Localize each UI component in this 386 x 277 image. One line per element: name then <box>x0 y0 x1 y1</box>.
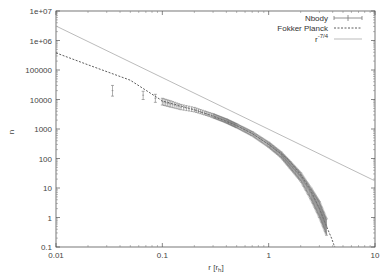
y-tick-label: 1000 <box>34 125 52 134</box>
legend-label-powerlaw: r-7/4 <box>315 33 329 44</box>
y-tick-label: 100000 <box>25 66 52 75</box>
x-axis-ticks: 0.010.1110 <box>48 11 380 260</box>
legend-swatch-nbody <box>334 15 362 21</box>
legend-label-nbody: Nbody <box>305 14 328 23</box>
x-tick-label: 1 <box>266 251 271 260</box>
chart: 0.11101001000100001000001e+061e+07 0.010… <box>0 0 386 277</box>
series-fokker-planck-line <box>56 53 335 247</box>
x-tick-label: 0.1 <box>157 251 169 260</box>
y-tick-label: 1e+07 <box>30 7 53 16</box>
x-tick-label: 0.01 <box>48 251 64 260</box>
y-tick-label: 1e+06 <box>30 37 53 46</box>
legend-label-fokker-planck: Fokker Planck <box>277 24 329 33</box>
y-tick-label: 10000 <box>30 96 53 105</box>
series-powerlaw-line <box>56 26 375 181</box>
x-axis-title: r [rh] <box>208 263 223 273</box>
x-tick-label: 10 <box>371 251 380 260</box>
y-tick-label: 1 <box>48 214 53 223</box>
y-axis-title: n <box>7 130 16 134</box>
series-nbody-points <box>111 85 328 235</box>
y-tick-label: 100 <box>39 155 53 164</box>
plot-frame <box>56 11 375 247</box>
legend: Nbody Fokker Planck r-7/4 <box>277 14 362 44</box>
y-tick-label: 10 <box>43 184 52 193</box>
